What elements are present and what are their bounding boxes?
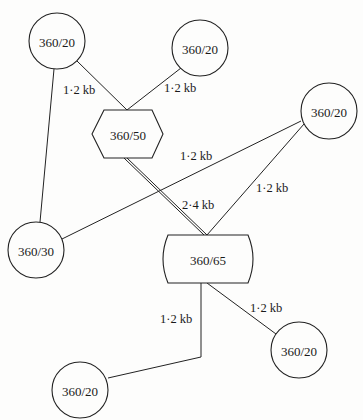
edges	[40, 61, 304, 378]
edge-n3-n6-b	[127, 158, 207, 235]
node-n6[interactable]: 360/65	[163, 235, 253, 283]
edge-n3-n6-a	[124, 158, 204, 235]
network-diagram: 360/20 360/20 360/50 360/20 360/30 360/6…	[0, 0, 363, 420]
nodes: 360/20 360/20 360/50 360/20 360/30 360/6…	[8, 13, 357, 418]
edge-label-n3-n6: 2·4 kb	[182, 198, 214, 212]
edge-n1-n5	[40, 69, 54, 222]
node-n4[interactable]: 360/20	[301, 83, 357, 139]
edge-label-n1-n3: 1·2 kb	[63, 83, 95, 97]
edge-label-n6-n7: 1·2 kb	[250, 301, 282, 315]
node-label: 360/20	[62, 384, 98, 399]
diagram-svg: 360/20 360/20 360/50 360/20 360/30 360/6…	[0, 0, 363, 420]
edge-label-n4-n5: 1·2 kb	[180, 149, 212, 163]
edge-labels: 1·2 kb 1·2 kb 1·2 kb 1·2 kb 2·4 kb 1·2 k…	[63, 81, 288, 326]
node-label: 360/50	[110, 128, 146, 143]
node-n5[interactable]: 360/30	[8, 222, 64, 278]
edge-label-n2-n3: 1·2 kb	[164, 81, 196, 95]
node-n3[interactable]: 360/50	[92, 110, 163, 158]
node-label: 360/65	[190, 253, 226, 268]
edge-n4-n6	[207, 124, 304, 235]
node-n2[interactable]: 360/20	[172, 20, 228, 76]
node-n7[interactable]: 360/20	[271, 322, 327, 378]
node-n8[interactable]: 360/20	[52, 362, 108, 418]
node-label: 360/20	[39, 35, 75, 50]
node-label: 360/20	[281, 344, 317, 359]
node-label: 360/30	[18, 244, 54, 259]
node-label: 360/20	[311, 105, 347, 120]
edge-label-n4-n6: 1·2 kb	[256, 181, 288, 195]
edge-label-n6-n8: 1·2 kb	[160, 312, 192, 326]
edge-n6-n8	[108, 283, 201, 378]
node-label: 360/20	[182, 42, 218, 57]
node-n1[interactable]: 360/20	[29, 13, 85, 69]
